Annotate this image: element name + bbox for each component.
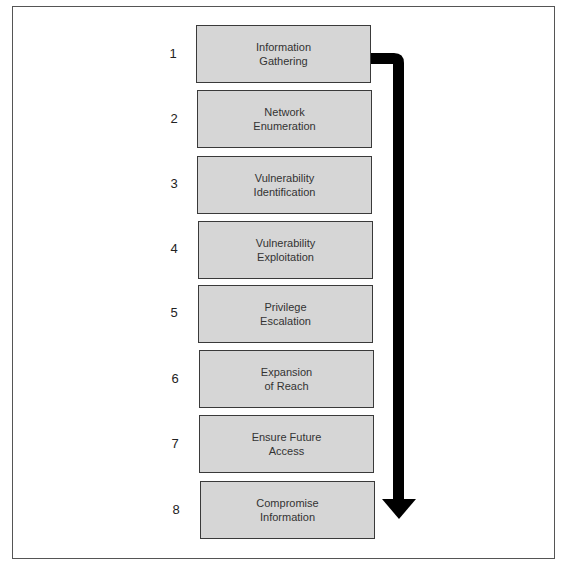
down-arrow-icon — [0, 0, 564, 562]
